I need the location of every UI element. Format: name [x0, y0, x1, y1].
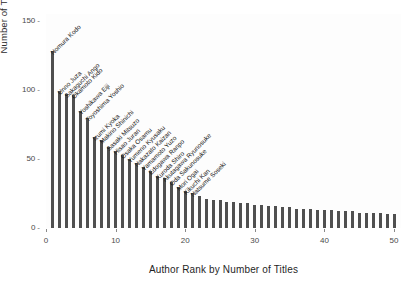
bar [107, 147, 110, 228]
bar [267, 206, 270, 228]
y-tick-label: 150- [0, 16, 40, 25]
x-tick-label: 0 [44, 236, 48, 245]
bar [372, 213, 375, 228]
x-tick-label: 50 [390, 236, 399, 245]
bar [309, 209, 312, 228]
bar [379, 213, 382, 228]
bar [316, 210, 319, 228]
bar [232, 202, 235, 228]
bar [170, 182, 173, 228]
x-tick-mark [46, 229, 47, 232]
bar [323, 210, 326, 228]
y-tick-label: 50- [0, 154, 40, 163]
bar [58, 91, 61, 228]
x-tick-label: 20 [181, 236, 190, 245]
y-axis-label: Number of Titles [0, 0, 9, 78]
bar [288, 207, 291, 228]
bar [212, 200, 215, 228]
bar [219, 200, 222, 228]
y-tick-label: 0- [0, 223, 40, 232]
bar [358, 213, 361, 228]
bar [365, 213, 368, 228]
x-tick-mark [116, 229, 117, 232]
bar [177, 187, 180, 228]
bar [72, 95, 75, 228]
y-tick-label: 100- [0, 85, 40, 94]
bar [253, 205, 256, 228]
bar [246, 203, 249, 228]
bar [149, 171, 152, 228]
bar [386, 214, 389, 228]
bar [239, 203, 242, 228]
x-tick-mark [324, 229, 325, 232]
bar [225, 202, 228, 228]
bar [142, 167, 145, 228]
bar [184, 191, 187, 228]
bar [205, 199, 208, 228]
bar [260, 205, 263, 228]
bar [198, 196, 201, 228]
bar [121, 155, 124, 228]
bar [274, 206, 277, 228]
bar [135, 163, 138, 228]
bar [156, 176, 159, 228]
bar [191, 193, 194, 228]
bar-series [46, 14, 401, 228]
x-tick-label: 40 [320, 236, 329, 245]
bar [281, 207, 284, 228]
bar [337, 211, 340, 228]
bar [128, 159, 131, 228]
bar [393, 214, 396, 228]
bar [344, 211, 347, 228]
bar [86, 118, 89, 228]
bar [351, 211, 354, 228]
bar-chart: Number of Titles 0-50-100-150- Nomura Ko… [0, 0, 419, 287]
x-tick-mark [394, 229, 395, 232]
bar [114, 151, 117, 228]
bar [302, 209, 305, 228]
bar [65, 94, 68, 228]
x-tick-label: 30 [250, 236, 259, 245]
x-tick-mark [185, 229, 186, 232]
bar [93, 137, 96, 228]
bar [295, 209, 298, 228]
bar [100, 140, 103, 228]
x-tick-label: 10 [111, 236, 120, 245]
x-tick-mark [255, 229, 256, 232]
bar [79, 111, 82, 228]
bar [51, 51, 54, 228]
bar [330, 210, 333, 228]
bar [163, 178, 166, 228]
x-axis-label: Author Rank by Number of Titles [46, 264, 401, 275]
